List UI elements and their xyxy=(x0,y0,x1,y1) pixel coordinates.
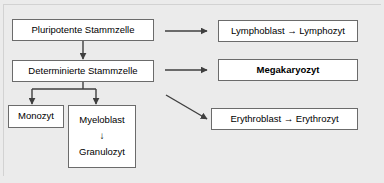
connector-arrow-to-erythroblast xyxy=(166,95,207,119)
node-myeloblast-granulozyt[interactable]: Myeloblast ↓ Granulozyt xyxy=(68,105,136,168)
node-label: Lymphoblast → Lymphozyt xyxy=(231,26,345,37)
node-erythroblast-erythrozyt[interactable]: Erythroblast → Erythrozyt xyxy=(211,108,358,130)
node-pluripotente-stammzelle[interactable]: Pluripotente Stammzelle xyxy=(12,19,154,41)
node-monozyt[interactable]: Monozyt xyxy=(8,105,64,128)
down-arrow-icon: ↓ xyxy=(100,131,105,141)
node-label: Megakaryozyt xyxy=(257,65,320,76)
diagram-canvas: Pluripotente Stammzelle Determinierte St… xyxy=(0,0,384,183)
node-label: Determinierte Stammzelle xyxy=(28,66,137,77)
node-label: Myeloblast xyxy=(79,115,124,126)
node-label: Monozyt xyxy=(18,111,54,122)
node-label: Pluripotente Stammzelle xyxy=(32,25,135,36)
node-lymphoblast-lymphozyt[interactable]: Lymphoblast → Lymphozyt xyxy=(218,20,358,42)
node-megakaryozyt[interactable]: Megakaryozyt xyxy=(218,59,358,81)
node-label-secondary: Granulozyt xyxy=(79,147,125,158)
node-determinierte-stammzelle[interactable]: Determinierte Stammzelle xyxy=(12,60,154,82)
node-label: Erythroblast → Erythrozyt xyxy=(230,114,338,125)
